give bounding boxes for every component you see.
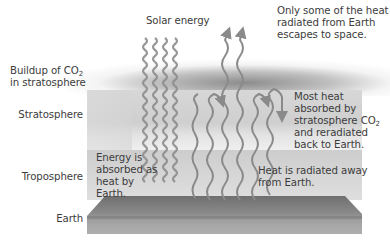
radiated-line-2: from Earth. [258,177,314,188]
stratosphere-label: Stratosphere [10,109,83,121]
co2-subscript: 2 [376,120,380,128]
radiated-line-1: Heat is radiated away [258,165,367,176]
troposphere-label: Troposphere [10,171,83,183]
co2-buildup-label: Buildup of CO2 in stratosphere [10,65,83,89]
absorbed-annotation: Energy is absorbed as heat by Earth. [96,152,157,200]
radiated-away-annotation: Heat is radiated away from Earth. [258,165,367,189]
escape-line-2: radiated from Earth [277,17,375,28]
absorbed-line-1: Energy is [96,152,142,163]
co2-label-text: Buildup of CO [10,65,79,76]
earth-label: Earth [10,213,83,225]
escape-annotation: Only some of the heat radiated from Eart… [277,5,388,41]
escape-line-3: escapes to space. [277,29,367,40]
co2-label-line2: in stratosphere [10,77,86,88]
reradiated-line-3: stratosphere CO [294,115,376,126]
escape-line-1: Only some of the heat [277,5,388,16]
reradiated-annotation: Most heat absorbed by stratosphere CO2 a… [294,91,380,151]
reradiated-line-4: and reradiated [294,127,368,138]
absorbed-line-2: absorbed as [96,164,157,175]
absorbed-line-4: Earth. [96,188,126,199]
reradiated-line-2: absorbed by [294,103,356,114]
solar-energy-label: Solar energy [146,15,210,27]
reradiated-line-5: back to Earth. [294,139,364,150]
reradiated-line-1: Most heat [294,91,344,102]
absorbed-line-3: heat by [96,176,134,187]
